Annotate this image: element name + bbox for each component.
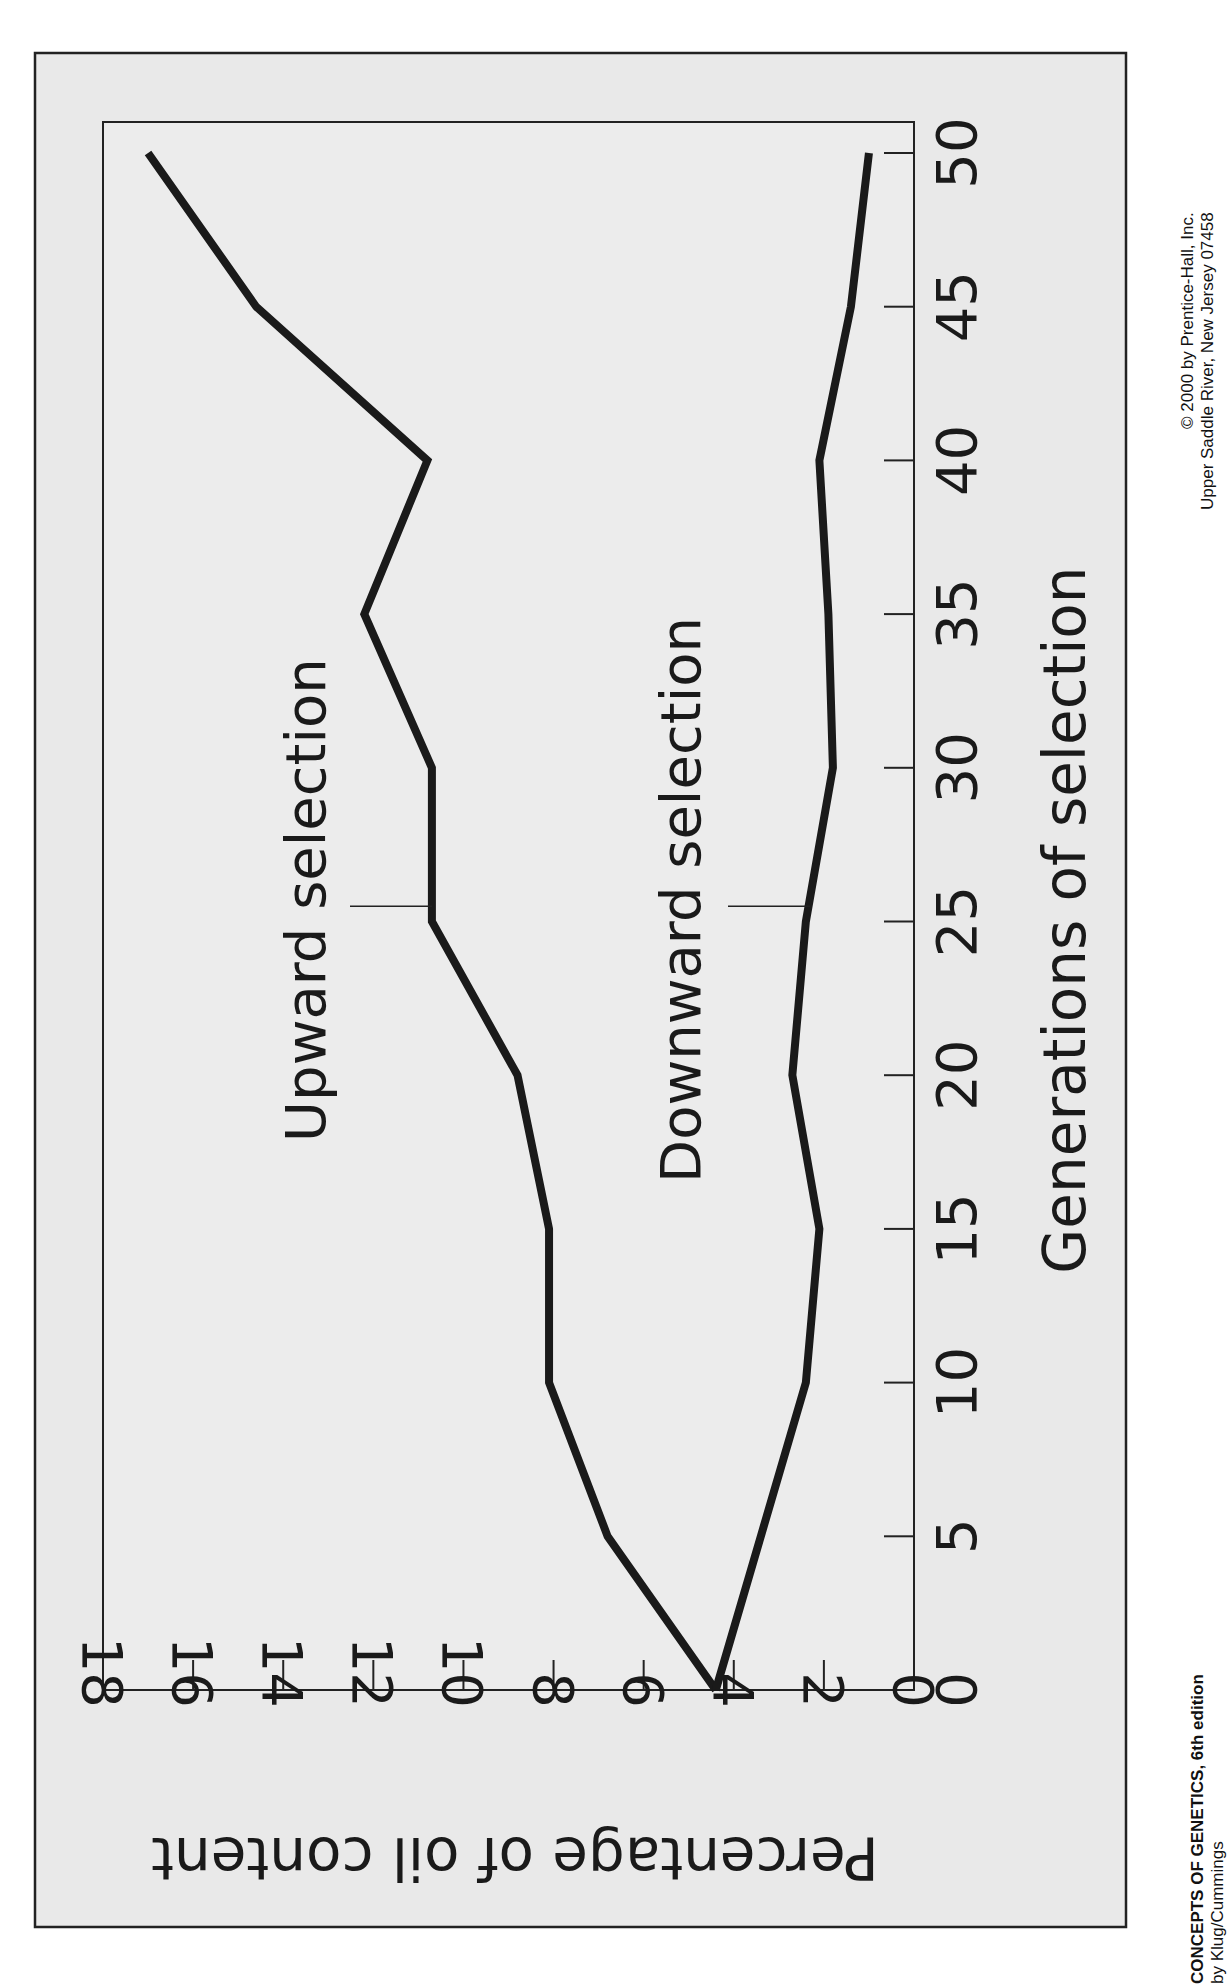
copyright-line: © 2000 by Prentice-Hall, Inc. [1178,212,1198,510]
book-title: CONCEPTS OF GENETICS, 6th edition [1188,1674,1207,1984]
x-tick-label: 10 [924,1347,989,1418]
x-tick-label: 20 [924,1040,989,1111]
publisher-address: Upper Saddle River, New Jersey 07458 [1198,212,1218,510]
y-tick-label: 2 [791,1672,856,1708]
x-tick-label: 25 [924,886,989,957]
upward-selection-label: Upward selection [273,658,338,1142]
y-tick-label: 18 [70,1637,135,1708]
x-tick-label: 45 [924,271,989,342]
y-tick-label: 12 [340,1637,405,1708]
x-tick-label: 30 [924,732,989,803]
y-tick-label: 10 [430,1637,495,1708]
x-tick-label: 15 [924,1193,989,1264]
x-axis-title: Generations of selection [1031,566,1099,1273]
y-tick-label: 8 [521,1672,586,1708]
y-tick-label: 6 [611,1672,676,1708]
x-tick-label: 5 [924,1518,989,1554]
book-credit: CONCEPTS OF GENETICS, 6th edition by Klu… [1188,1674,1228,1984]
y-tick-label: 0 [881,1672,946,1708]
y-tick-label: 16 [160,1637,225,1708]
x-tick-label: 40 [924,425,989,496]
copyright-credit: © 2000 by Prentice-Hall, Inc. Upper Sadd… [1178,212,1218,510]
x-tick-label: 35 [924,578,989,649]
downward-selection-label: Downward selection [648,617,713,1183]
book-authors: by Klug/Cummings [1208,1674,1228,1984]
x-tick-label: 50 [924,117,989,188]
y-tick-label: 14 [250,1637,315,1708]
y-axis-title: Percentage of oil content [151,1824,878,1892]
